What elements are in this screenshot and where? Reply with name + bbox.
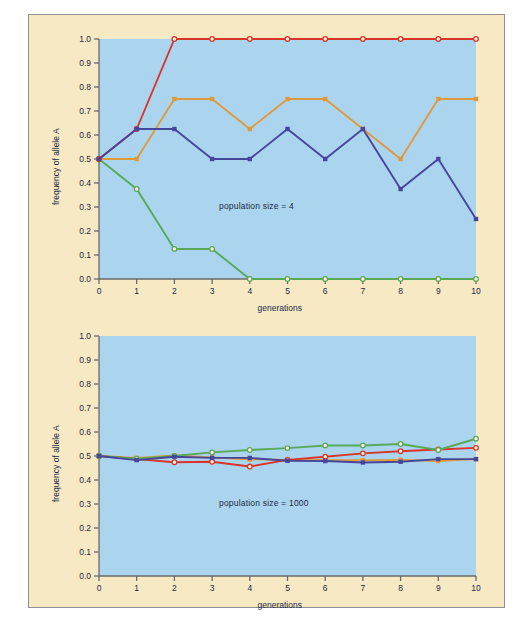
svg-text:1.0: 1.0: [79, 34, 91, 44]
svg-text:2: 2: [172, 583, 177, 593]
chart-panel-top: 0.00.10.20.30.40.50.60.70.80.91.00123456…: [29, 15, 506, 312]
svg-text:0.5: 0.5: [79, 451, 91, 461]
svg-text:6: 6: [323, 583, 328, 593]
svg-text:0.7: 0.7: [79, 403, 91, 413]
x-axis-label-bottom: generations: [258, 600, 302, 610]
svg-text:0.5: 0.5: [79, 154, 91, 164]
svg-text:3: 3: [210, 583, 215, 593]
svg-text:0.7: 0.7: [79, 106, 91, 116]
svg-text:0.8: 0.8: [79, 82, 91, 92]
figure-root: 0.00.10.20.30.40.50.60.70.80.91.00123456…: [0, 0, 528, 639]
chart-panel-bottom: 0.00.10.20.30.40.50.60.70.80.91.00123456…: [29, 312, 506, 609]
svg-text:0.3: 0.3: [79, 499, 91, 509]
svg-text:0.9: 0.9: [79, 58, 91, 68]
svg-text:0.0: 0.0: [79, 571, 91, 581]
svg-text:7: 7: [361, 286, 366, 296]
svg-text:5: 5: [285, 583, 290, 593]
svg-text:0.6: 0.6: [79, 427, 91, 437]
svg-text:8: 8: [398, 583, 403, 593]
svg-text:4: 4: [247, 286, 252, 296]
svg-text:5: 5: [285, 286, 290, 296]
line-chart-bottom: 0.00.10.20.30.40.50.60.70.80.91.00123456…: [29, 312, 506, 609]
svg-text:0: 0: [97, 286, 102, 296]
svg-text:10: 10: [471, 583, 481, 593]
line-chart-top: 0.00.10.20.30.40.50.60.70.80.91.00123456…: [29, 15, 506, 312]
y-axis-label-top: frequency of allele A: [51, 128, 61, 205]
svg-text:1: 1: [134, 286, 139, 296]
annotation-population-size-bottom: population size = 1000: [219, 498, 309, 508]
svg-text:0.9: 0.9: [79, 355, 91, 365]
y-axis-label-bottom: frequency of allele A: [51, 425, 61, 502]
svg-text:8: 8: [398, 286, 403, 296]
svg-text:3: 3: [210, 286, 215, 296]
svg-text:0.4: 0.4: [79, 178, 91, 188]
svg-text:0.0: 0.0: [79, 274, 91, 284]
annotation-population-size-top: population size = 4: [219, 201, 294, 211]
svg-text:0.4: 0.4: [79, 475, 91, 485]
svg-text:1.0: 1.0: [79, 331, 91, 341]
svg-text:4: 4: [247, 583, 252, 593]
svg-text:10: 10: [471, 286, 481, 296]
svg-text:6: 6: [323, 286, 328, 296]
svg-text:0.1: 0.1: [79, 547, 91, 557]
svg-text:0.3: 0.3: [79, 202, 91, 212]
svg-text:0.1: 0.1: [79, 250, 91, 260]
svg-text:9: 9: [436, 583, 441, 593]
figure-card: 0.00.10.20.30.40.50.60.70.80.91.00123456…: [28, 14, 505, 608]
svg-text:2: 2: [172, 286, 177, 296]
svg-text:0.8: 0.8: [79, 379, 91, 389]
svg-text:0.2: 0.2: [79, 523, 91, 533]
svg-text:7: 7: [361, 583, 366, 593]
svg-text:1: 1: [134, 583, 139, 593]
svg-text:0.2: 0.2: [79, 226, 91, 236]
svg-text:0: 0: [97, 583, 102, 593]
svg-text:9: 9: [436, 286, 441, 296]
svg-text:0.6: 0.6: [79, 130, 91, 140]
